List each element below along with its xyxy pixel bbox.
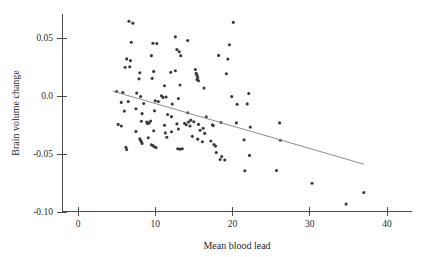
scatter-chart-figure: 0.050.0-0.05-0.10 010203040 Mean blood l…	[0, 0, 425, 257]
data-point	[278, 121, 281, 124]
data-point	[225, 72, 228, 75]
data-point	[188, 124, 191, 127]
data-point	[164, 131, 167, 134]
data-point	[215, 151, 218, 154]
x-tick-label: 10	[151, 219, 161, 229]
data-point	[117, 123, 120, 126]
data-point	[142, 102, 145, 105]
data-point	[151, 77, 154, 80]
x-axis-label: Mean blood lead	[203, 240, 270, 251]
data-point	[212, 124, 215, 127]
data-point	[129, 59, 132, 62]
data-point	[174, 35, 177, 38]
data-point	[191, 135, 194, 138]
data-point	[141, 142, 144, 145]
data-point	[220, 155, 223, 158]
data-point	[236, 103, 239, 106]
data-point	[175, 48, 178, 51]
data-point	[217, 54, 220, 57]
data-point	[150, 54, 153, 57]
data-point	[165, 136, 168, 139]
data-point	[226, 58, 229, 61]
data-point	[247, 92, 250, 95]
data-point	[187, 121, 190, 124]
data-point	[152, 70, 155, 73]
data-point	[196, 138, 199, 141]
data-point	[246, 102, 249, 105]
data-point	[175, 122, 178, 125]
data-point	[202, 87, 205, 90]
data-point	[139, 95, 142, 98]
data-point	[235, 121, 238, 124]
data-point	[311, 182, 314, 185]
data-point	[152, 129, 155, 132]
data-point	[134, 107, 137, 110]
data-point	[275, 169, 278, 172]
data-point	[149, 119, 152, 122]
data-point	[153, 109, 156, 112]
data-point	[178, 83, 181, 86]
data-point	[243, 138, 246, 141]
chart-background	[0, 0, 425, 257]
data-point	[131, 22, 134, 25]
data-point	[137, 77, 140, 80]
data-point	[232, 21, 235, 24]
data-point	[163, 84, 166, 87]
data-point	[186, 39, 189, 42]
data-point	[230, 95, 233, 98]
data-point	[201, 140, 204, 143]
data-point	[166, 113, 169, 116]
data-point	[140, 120, 143, 123]
data-point	[203, 132, 206, 135]
data-point	[174, 69, 177, 72]
data-point	[171, 103, 174, 106]
data-point	[219, 158, 222, 161]
data-point	[177, 128, 180, 131]
data-point	[120, 124, 123, 127]
data-point	[151, 42, 154, 45]
data-point	[124, 66, 127, 69]
data-point	[345, 203, 348, 206]
x-tick-label: 20	[228, 219, 238, 229]
y-tick-label: 0.0	[41, 91, 53, 101]
data-point	[130, 41, 133, 44]
data-point	[157, 100, 160, 103]
data-point	[127, 100, 130, 103]
data-point	[147, 136, 150, 139]
data-point	[249, 126, 252, 129]
data-point	[202, 127, 205, 130]
x-tick-label: 40	[382, 219, 392, 229]
data-point	[169, 71, 172, 74]
y-axis-label: Brain volume change	[10, 70, 21, 156]
x-tick-label: 30	[305, 219, 315, 229]
data-point	[362, 191, 365, 194]
data-point	[248, 154, 251, 157]
data-point	[135, 92, 138, 95]
data-point	[178, 50, 181, 53]
data-point	[214, 145, 217, 148]
data-point	[125, 57, 128, 60]
data-point	[170, 130, 173, 133]
data-point	[127, 20, 130, 23]
data-point	[192, 120, 195, 123]
data-point	[223, 158, 226, 161]
data-point	[194, 68, 197, 71]
data-point	[163, 124, 166, 127]
data-point	[155, 42, 158, 45]
data-point	[141, 112, 144, 115]
y-tick-label: -0.10	[33, 207, 53, 217]
data-point	[138, 71, 141, 74]
data-point	[199, 129, 202, 132]
data-point	[123, 110, 126, 113]
data-point	[185, 123, 188, 126]
data-point	[161, 96, 164, 99]
data-point	[179, 54, 182, 57]
data-point	[197, 79, 200, 82]
chart-canvas: 0.050.0-0.05-0.10 010203040 Mean blood l…	[0, 0, 425, 257]
data-point	[243, 169, 246, 172]
y-tick-label: -0.05	[33, 149, 53, 159]
data-point	[170, 115, 173, 118]
x-tick-label: 0	[76, 219, 81, 229]
data-point	[154, 146, 157, 149]
data-point	[154, 99, 157, 102]
